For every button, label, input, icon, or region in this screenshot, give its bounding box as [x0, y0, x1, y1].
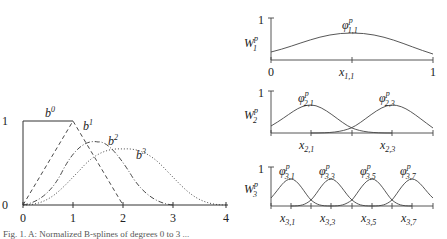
svg-text:φp3,1: φp3,1: [279, 162, 295, 181]
series-b3: [23, 149, 226, 205]
panel-w2: [268, 91, 433, 136]
figure: 1 0 0 1 2 3 4 b0 b1 b2 b3 1 Wp1 φp1,1 0 …: [0, 0, 447, 239]
svg-text:φp2,1: φp2,1: [298, 89, 314, 108]
svg-text:0: 0: [2, 198, 8, 212]
svg-text:b1: b1: [83, 118, 93, 133]
figure-caption: Fig. 1. A: Normalized B-splines of degre…: [3, 229, 189, 239]
svg-text:Wp3: Wp3: [244, 180, 258, 199]
panel-w2-labels: 1 Wp2 φp2,1 φp2,3 x2,1 x2,3: [244, 86, 395, 154]
svg-text:x1,1: x1,1: [338, 65, 354, 81]
svg-text:φp3,7: φp3,7: [400, 162, 417, 181]
svg-text:1: 1: [2, 114, 8, 128]
svg-text:φp1,1: φp1,1: [342, 16, 358, 35]
series-b2: [23, 142, 173, 205]
svg-text:1: 1: [258, 162, 264, 176]
svg-text:x3,3: x3,3: [319, 211, 335, 227]
svg-text:1: 1: [70, 211, 76, 225]
svg-text:b0: b0: [45, 105, 55, 120]
svg-text:2: 2: [120, 211, 126, 225]
svg-text:1: 1: [258, 13, 264, 27]
panel-w1-labels: 1 Wp1 φp1,1 0 x1,1 1: [244, 13, 436, 81]
svg-text:x3,1: x3,1: [279, 211, 295, 227]
svg-text:b3: b3: [136, 147, 146, 162]
svg-text:φp3,3: φp3,3: [319, 162, 335, 181]
svg-text:x2,1: x2,1: [298, 138, 314, 154]
svg-text:0: 0: [20, 211, 26, 225]
svg-text:b2: b2: [108, 133, 118, 148]
svg-text:x3,5: x3,5: [360, 211, 376, 227]
svg-text:4: 4: [223, 211, 229, 225]
svg-text:0: 0: [268, 65, 274, 79]
bspline-chart: [23, 121, 228, 208]
svg-text:x2,3: x2,3: [379, 138, 395, 154]
bspline-labels: 1 0 0 1 2 3 4 b0 b1 b2 b3: [2, 105, 229, 225]
svg-text:1: 1: [258, 86, 264, 100]
svg-text:Wp1: Wp1: [244, 34, 258, 53]
svg-text:x3,7: x3,7: [400, 211, 417, 227]
svg-text:1: 1: [430, 65, 436, 79]
svg-text:Wp2: Wp2: [244, 106, 258, 125]
svg-text:φp3,5: φp3,5: [360, 162, 376, 181]
svg-text:3: 3: [170, 211, 176, 225]
panel-w3-labels: 1 Wp3 φp3,1 φp3,3 φp3,5 φp3,7 x3,1 x3,3 …: [244, 162, 417, 227]
svg-text:φp2,3: φp2,3: [379, 89, 395, 108]
